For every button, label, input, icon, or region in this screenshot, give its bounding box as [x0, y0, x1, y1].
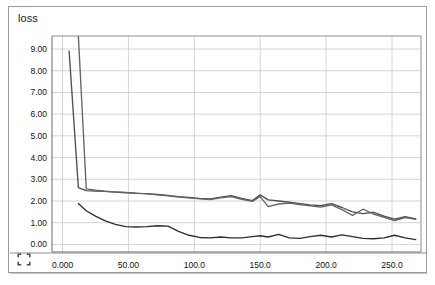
- series-line-series-1: [69, 51, 416, 219]
- y-tick-label: 3.00: [30, 174, 47, 184]
- y-axis-tick-labels: 0.001.002.003.004.005.006.007.008.009.00: [30, 44, 47, 249]
- x-tick-label: 0.000: [52, 260, 74, 270]
- y-tick-label: 0.00: [30, 239, 47, 249]
- y-tick-label: 6.00: [30, 109, 47, 119]
- x-tick-label: 250.0: [381, 260, 403, 270]
- y-tick-label: 7.00: [30, 87, 47, 97]
- x-tick-label: 100.0: [184, 260, 206, 270]
- series-line-series-3: [78, 204, 415, 240]
- x-tick-label: 150.0: [250, 260, 272, 270]
- x-tick-label: 200.0: [315, 260, 337, 270]
- gridlines: [52, 36, 421, 252]
- series-line-series-2: [78, 36, 415, 221]
- x-tick-label: 50.00: [118, 260, 140, 270]
- y-tick-label: 8.00: [30, 66, 47, 76]
- loss-line-chart[interactable]: 0.001.002.003.004.005.006.007.008.009.00…: [9, 7, 428, 274]
- loss-chart-widget: loss 0.001.002.003.004.005.006.007.008.0…: [8, 6, 427, 273]
- y-tick-label: 9.00: [30, 44, 47, 54]
- expand-fullscreen-icon[interactable]: [17, 253, 31, 266]
- y-tick-label: 2.00: [30, 196, 47, 206]
- y-tick-label: 4.00: [30, 153, 47, 163]
- y-tick-label: 5.00: [30, 131, 47, 141]
- x-axis-tick-labels: 0.00050.00100.0150.0200.0250.0: [52, 260, 403, 270]
- y-tick-label: 1.00: [30, 218, 47, 228]
- series-lines: [69, 36, 416, 240]
